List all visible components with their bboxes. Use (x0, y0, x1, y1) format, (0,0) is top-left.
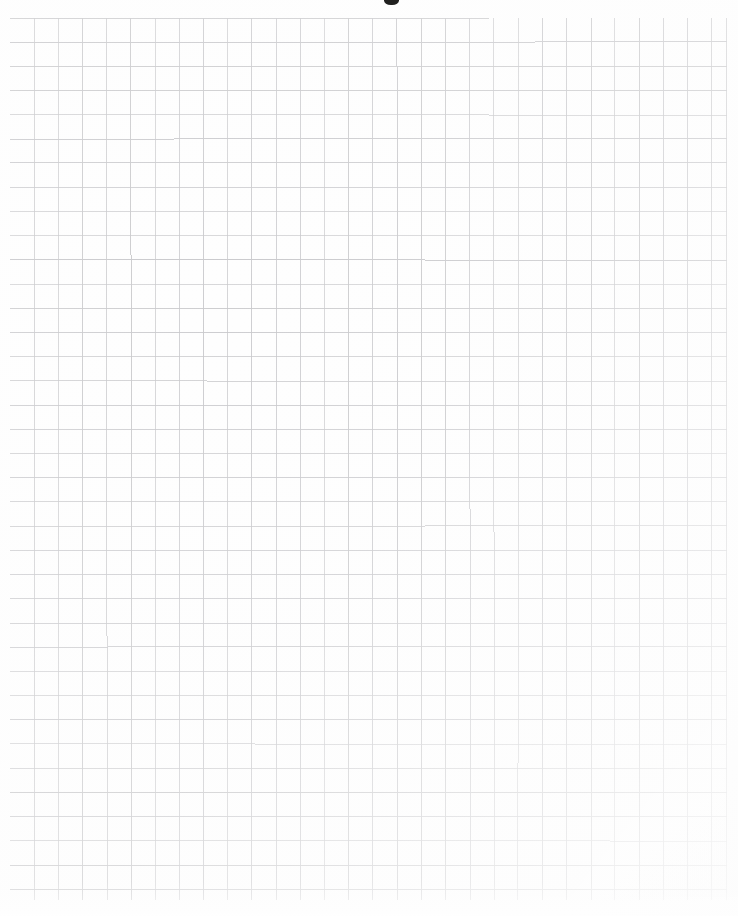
grid-line-vertical (300, 18, 301, 900)
grid-line-horizontal (10, 453, 727, 454)
grid-vertical-lines (10, 18, 727, 900)
grid-line-horizontal (10, 115, 727, 116)
grid-line-vertical (82, 18, 83, 900)
grid-line-horizontal (10, 695, 727, 696)
grid-line-vertical (397, 18, 398, 900)
graph-paper-page (0, 0, 738, 916)
grid-line-horizontal (10, 744, 727, 745)
grid-sheet (10, 18, 727, 900)
grid-line-vertical (179, 18, 180, 900)
grid-lines (10, 18, 727, 900)
grid-line-vertical (494, 18, 495, 900)
grid-horizontal-lines (10, 18, 727, 900)
grid-line-vertical (107, 18, 108, 900)
grid-line-horizontal (10, 840, 727, 841)
grid-line-horizontal (10, 139, 727, 140)
grid-line-horizontal (10, 235, 727, 236)
